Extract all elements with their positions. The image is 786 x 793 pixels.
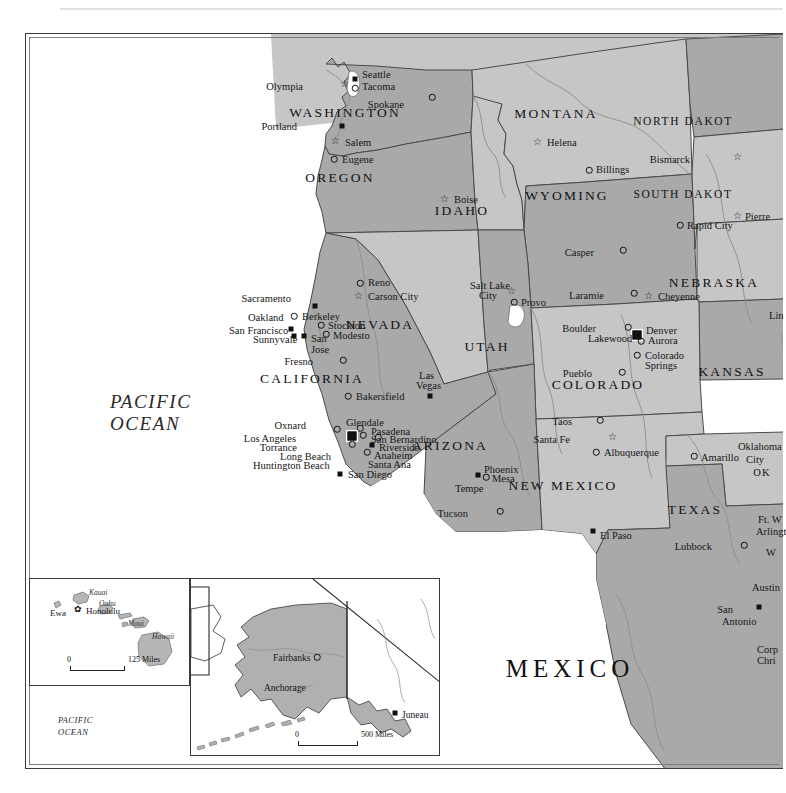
alaska-landmass	[191, 579, 440, 756]
city-label-reno-17: Reno	[368, 278, 390, 289]
city-marker-riverside	[370, 443, 375, 448]
island-niihau	[54, 601, 61, 608]
city-marker-circle-provo	[511, 299, 518, 306]
city-label-carson-city-18: Carson City	[368, 292, 418, 303]
city-label-huntington-beach-42: Huntington Beach	[253, 461, 330, 472]
city-label-tacoma-2: Tacoma	[362, 82, 395, 93]
city-label-helena-8: Helena	[547, 138, 577, 149]
city-marker-vegas	[428, 394, 433, 399]
state-label-oregon: OREGON	[305, 171, 374, 185]
city-marker-san	[757, 605, 762, 610]
hawaii-scale-bar-value: 125 Miles	[128, 655, 160, 664]
state-label-kansas: KANSAS	[698, 365, 765, 379]
state-label-wyoming: WYOMING	[525, 189, 609, 203]
city-marker-star-cheyenne: ☆	[644, 291, 653, 301]
city-label-lin-16: Lin	[769, 311, 784, 322]
city-marker-flower-honolulu: ✿	[74, 605, 82, 614]
city-marker-star-santa-fe: ☆	[608, 432, 617, 442]
state-label-ok: OK	[753, 468, 771, 479]
hawaii-scale-bar-zero: 0	[67, 655, 71, 664]
city-marker-san-francisco	[289, 327, 294, 332]
city-label-city-64: City	[746, 455, 764, 466]
city-label-ft-w-65: Ft. W	[758, 515, 782, 526]
city-label-sacramento-19: Sacramento	[241, 294, 291, 305]
pacific-ocean-main: PACIFICOCEAN	[110, 392, 192, 433]
state-label-montana: MONTANA	[514, 107, 597, 121]
city-label-corp-72: Corp	[757, 645, 778, 656]
aleutian-islands	[197, 717, 305, 750]
city-marker-circle-spokane	[429, 94, 436, 101]
city-marker-circle-boulder	[625, 324, 632, 331]
city-label-taos-54: Taos	[552, 417, 572, 428]
city-marker-circle-casper	[620, 247, 627, 254]
city-label-casper-10: Casper	[565, 248, 594, 259]
city-label-ewa: Ewa	[50, 609, 66, 618]
city-marker-san-diego	[338, 472, 343, 477]
city-marker-circle-aurora	[638, 338, 645, 345]
city-label-rapid-city-15: Rapid City	[687, 221, 733, 232]
pacific-ocean-main-line2: OCEAN	[110, 414, 192, 433]
island-kauai	[73, 592, 89, 604]
pacific-ocean-alaska-line2: OCEAN	[58, 728, 93, 737]
pacific-ocean-alaska-line1: PACIFIC	[58, 716, 93, 725]
city-marker-circle-bakersfield	[345, 393, 352, 400]
city-label-w-68: W	[766, 548, 776, 559]
hawaii-scale-bar-bar	[70, 666, 125, 671]
city-label-anchorage: Anchorage	[264, 684, 306, 694]
city-label-mesa-58: Mesa	[492, 474, 515, 485]
city-label-laramie-11: Laramie	[569, 291, 604, 302]
city-marker-circle-lubbock	[741, 542, 748, 549]
city-marker-circle-taos	[597, 417, 604, 424]
city-label-fresno-28: Fresno	[284, 357, 313, 368]
city-label-san-diego-43: San Diego	[348, 470, 392, 481]
city-label-spokane-3: Spokane	[368, 100, 404, 111]
city-marker-star-olympia: ☆	[340, 79, 349, 89]
city-label-sunnyvale-23: Sunnyvale	[253, 335, 297, 346]
city-label-lakewood-49: Lakewood	[588, 334, 632, 345]
city-label-olympia-1: Olympia	[266, 82, 303, 93]
city-label-pueblo-53: Pueblo	[563, 369, 592, 380]
city-marker-circle-colorado	[634, 352, 641, 359]
city-marker-el-paso	[591, 529, 596, 534]
pacific-ocean-alaska: PACIFICOCEAN	[58, 716, 93, 736]
city-marker-circle-anaheim	[364, 449, 371, 456]
city-label-springs-52: Springs	[645, 361, 677, 372]
island-label-hawaii: Hawaii	[152, 633, 174, 641]
page-top-rule	[60, 8, 783, 10]
city-marker-circle-tucson	[497, 508, 504, 515]
city-label-vegas-31: Vegas	[416, 381, 441, 392]
city-marker-circle-pasadena	[360, 432, 367, 439]
state-label-new-mexico: NEW MEXICO	[508, 479, 617, 493]
city-marker-star-boise: ☆	[440, 194, 449, 204]
city-label-tucson-60: Tucson	[437, 509, 468, 520]
city-label-albuquerque-56: Albuquerque	[604, 448, 659, 459]
city-marker-circle-eugene	[331, 156, 338, 163]
city-marker-phoenix	[476, 473, 481, 478]
city-marker-juneau	[393, 711, 398, 716]
city-label-provo-46: Provo	[521, 298, 546, 309]
city-label-oxnard-32: Oxnard	[275, 421, 307, 432]
city-label-arlingt-66: Arlingt	[756, 527, 786, 538]
city-marker-sacramento	[313, 304, 318, 309]
city-marker-circle-reno	[357, 280, 364, 287]
city-marker-fairbanks	[314, 654, 321, 661]
city-marker-seattle	[353, 77, 358, 82]
city-label-juneau: Juneau	[402, 711, 428, 721]
city-label-antonio-71: Antonio	[722, 617, 756, 628]
city-label-salem-5: Salem	[345, 138, 371, 149]
city-marker-portland	[340, 124, 345, 129]
state-label-california: CALIFORNIA	[260, 372, 364, 386]
alaska-scale-bar-bar	[298, 741, 358, 746]
russia-coast	[191, 605, 225, 661]
city-label-lubbock-67: Lubbock	[675, 542, 712, 553]
state-label-nebraska: NEBRASKA	[669, 276, 759, 290]
city-marker-circle-berkeley	[291, 313, 298, 320]
city-label-austin-69: Austin	[752, 583, 780, 594]
city-marker-star-city: ☆	[507, 286, 516, 296]
state-label-texas: TEXAS	[668, 503, 723, 517]
city-label-fairbanks: Fairbanks	[273, 654, 310, 664]
city-label-bismarck-13: Bismarck	[650, 155, 690, 166]
city-marker-circle-rapid-city	[677, 222, 684, 229]
island-label-maui: Maui	[128, 620, 144, 628]
city-marker-circle-tacoma	[352, 85, 359, 92]
